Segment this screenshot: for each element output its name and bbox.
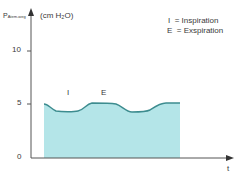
legend-exspiration: E = Exspiration <box>167 26 223 35</box>
annotation-inspiration: I <box>67 88 69 97</box>
y-axis-arrow-icon <box>28 8 34 16</box>
y-axis-label: PAtem-weg <box>3 12 26 19</box>
legend-inspiration: I = Inspiration <box>168 16 218 25</box>
annotation-exspiration: E <box>101 88 106 97</box>
x-axis-arrow-icon <box>226 155 234 161</box>
y-axis-label-subscript: Atem-weg <box>8 14 26 19</box>
y-tick-label-0: 0 <box>17 152 21 161</box>
y-tick-label-5: 5 <box>17 98 21 107</box>
x-axis-label: t <box>227 164 229 173</box>
y-axis-unit: (cm H₂O) <box>40 11 73 20</box>
y-tick-label-10: 10 <box>12 45 21 54</box>
